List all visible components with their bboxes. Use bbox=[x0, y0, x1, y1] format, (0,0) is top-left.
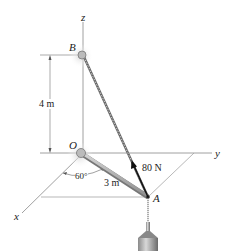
angle-label-60: 60° bbox=[75, 172, 88, 181]
dimension-label-4m: 4 m bbox=[39, 99, 54, 109]
point-label-A: A bbox=[153, 193, 160, 204]
weight-cylinder bbox=[138, 238, 158, 251]
diagram-canvas bbox=[0, 0, 233, 251]
weight-neck bbox=[146, 222, 150, 232]
ball-joint-B bbox=[78, 51, 86, 59]
dimension-arrow bbox=[49, 148, 52, 153]
ball-joint-O bbox=[77, 149, 86, 158]
projection-line bbox=[148, 153, 194, 197]
dimension-arrow bbox=[49, 55, 52, 60]
point-label-O: O bbox=[69, 140, 77, 151]
point-label-B: B bbox=[69, 42, 76, 53]
axis-label-y: y bbox=[215, 148, 220, 159]
weight-cap bbox=[138, 231, 158, 238]
force-arrow-head bbox=[131, 160, 137, 169]
axis-label-x: x bbox=[14, 211, 19, 222]
force-label-80N: 80 N bbox=[142, 163, 162, 173]
axis-label-z: z bbox=[81, 12, 85, 23]
dimension-label-3m: 3 m bbox=[104, 178, 119, 188]
